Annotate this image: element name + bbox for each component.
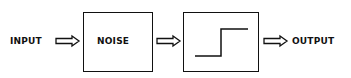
step-function-icon bbox=[183, 12, 259, 72]
output-label: OUTPUT bbox=[292, 36, 334, 46]
input-label: INPUT bbox=[10, 36, 42, 46]
noise-label: NOISE bbox=[97, 36, 129, 46]
arrow-threshold-to-output-icon bbox=[263, 35, 289, 47]
arrow-input-to-noise-icon bbox=[55, 35, 81, 47]
arrow-noise-to-threshold-icon bbox=[156, 35, 182, 47]
